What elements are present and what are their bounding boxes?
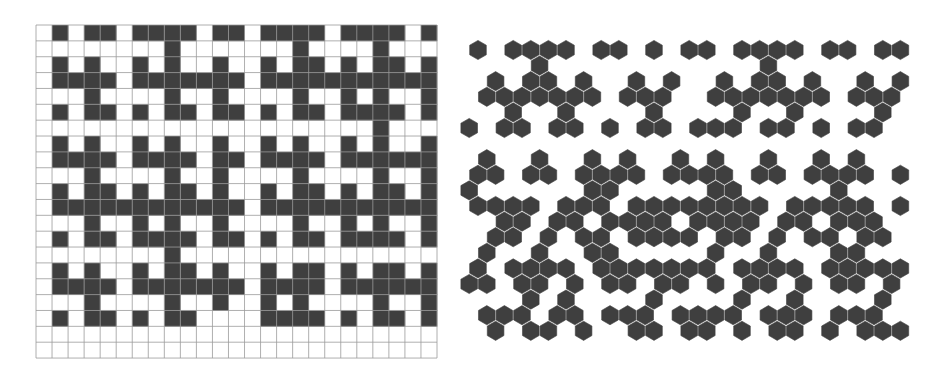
filled-cell — [373, 57, 389, 73]
filled-cell — [228, 25, 244, 41]
filled-hexagon — [839, 259, 856, 278]
filled-hexagon — [751, 196, 768, 215]
filled-hexagon — [663, 72, 680, 91]
filled-hexagon — [681, 165, 698, 184]
filled-hexagon — [707, 274, 724, 293]
filled-cell — [373, 88, 389, 104]
filled-hexagon — [725, 118, 742, 137]
filled-hexagon — [522, 40, 539, 59]
filled-hexagon — [663, 228, 680, 247]
filled-cell — [373, 215, 389, 231]
filled-hexagon — [769, 165, 786, 184]
filled-hexagon — [707, 150, 724, 169]
filled-cell — [389, 231, 405, 247]
filled-hexagon — [584, 181, 601, 200]
filled-cell — [309, 310, 325, 326]
filled-hexagon — [857, 259, 874, 278]
filled-cell — [228, 199, 244, 215]
filled-hexagon — [698, 165, 715, 184]
filled-cell — [421, 136, 437, 152]
filled-hexagon — [690, 118, 707, 137]
filled-hexagon — [839, 165, 856, 184]
filled-hexagon — [575, 72, 592, 91]
filled-cell — [196, 73, 212, 89]
filled-hexagon — [786, 103, 803, 122]
filled-hexagon — [584, 243, 601, 262]
filled-cell — [132, 199, 148, 215]
filled-hexagon — [778, 212, 795, 231]
filled-hexagon — [874, 103, 891, 122]
filled-hexagon — [848, 243, 865, 262]
filled-cell — [228, 279, 244, 295]
filled-cell — [212, 231, 228, 247]
filled-cell — [373, 199, 389, 215]
filled-cell — [421, 184, 437, 200]
filled-hexagon — [558, 290, 575, 309]
filled-cell — [180, 199, 196, 215]
filled-hexagon — [804, 196, 821, 215]
filled-cell — [261, 231, 277, 247]
filled-hexagon — [707, 118, 724, 137]
filled-cell — [132, 279, 148, 295]
filled-hexagon — [628, 228, 645, 247]
filled-hexagon — [663, 165, 680, 184]
filled-cell — [293, 104, 309, 120]
filled-hexagon — [751, 72, 768, 91]
filled-cell — [341, 310, 357, 326]
filled-cell — [52, 104, 68, 120]
filled-hexagon — [566, 274, 583, 293]
filled-hexagon — [813, 118, 830, 137]
filled-hexagon — [725, 212, 742, 231]
filled-cell — [389, 25, 405, 41]
filled-cell — [212, 73, 228, 89]
filled-cell — [180, 104, 196, 120]
filled-hexagon — [707, 243, 724, 262]
filled-hexagon — [505, 40, 522, 59]
filled-hexagon — [725, 306, 742, 325]
filled-hexagon — [558, 40, 575, 59]
filled-hexagon — [549, 87, 566, 106]
filled-hexagon — [681, 228, 698, 247]
filled-cell — [100, 231, 116, 247]
filled-hexagon — [575, 321, 592, 340]
filled-hexagon — [813, 87, 830, 106]
filled-cell — [341, 73, 357, 89]
filled-cell — [293, 136, 309, 152]
filled-hexagon — [866, 306, 883, 325]
filled-hexagon — [848, 212, 865, 231]
filled-hexagon — [716, 228, 733, 247]
filled-cell — [84, 25, 100, 41]
filled-cell — [421, 310, 437, 326]
filled-cell — [309, 231, 325, 247]
filled-cell — [132, 184, 148, 200]
filled-hexagon — [663, 196, 680, 215]
filled-cell — [84, 279, 100, 295]
filled-cell — [293, 73, 309, 89]
filled-cell — [100, 199, 116, 215]
filled-hexagon — [883, 274, 900, 293]
filled-hexagon — [769, 321, 786, 340]
filled-hexagon — [830, 212, 847, 231]
filled-hexagon — [540, 259, 557, 278]
filled-hexagon — [628, 321, 645, 340]
filled-hexagon — [470, 196, 487, 215]
filled-cell — [389, 152, 405, 168]
filled-cell — [293, 168, 309, 184]
filled-hexagon — [619, 150, 636, 169]
filled-hexagon — [857, 196, 874, 215]
filled-hexagon — [839, 196, 856, 215]
filled-cell — [100, 152, 116, 168]
filled-hexagon — [496, 87, 513, 106]
filled-hexagon — [883, 87, 900, 106]
filled-cell — [325, 73, 341, 89]
filled-cell — [261, 104, 277, 120]
filled-hexagon — [804, 72, 821, 91]
filled-cell — [261, 136, 277, 152]
filled-hexagon — [514, 274, 531, 293]
filled-hexagon — [628, 72, 645, 91]
filled-hexagon — [602, 118, 619, 137]
filled-hexagon — [822, 196, 839, 215]
filled-cell — [309, 104, 325, 120]
filled-cell — [84, 184, 100, 200]
filled-cell — [277, 279, 293, 295]
